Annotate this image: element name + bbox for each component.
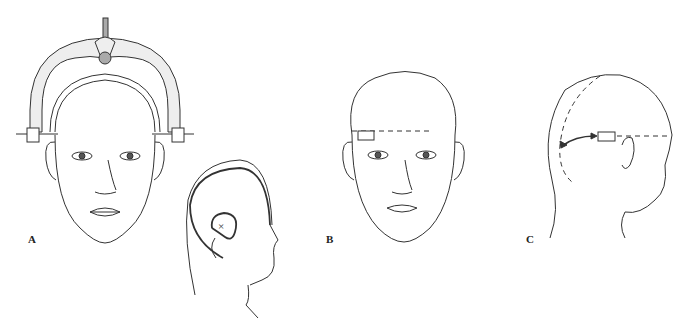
- head-outline: [351, 72, 456, 243]
- head-outline: [548, 75, 672, 238]
- marker-rectangle: [358, 131, 374, 140]
- frame-inner-band-2: [55, 80, 155, 132]
- right-ear: [154, 142, 164, 180]
- mouth: [90, 208, 120, 216]
- right-pin-clamp: [172, 128, 184, 142]
- inset-face-profile: [246, 225, 278, 318]
- right-iris: [423, 152, 429, 158]
- frame-knob-icon: [99, 52, 111, 64]
- arrow-head-left: [560, 141, 567, 148]
- inset-head-inner: [190, 168, 270, 258]
- diagram-canvas: ×: [0, 0, 683, 331]
- right-ear: [454, 142, 464, 180]
- dashed-curve: [560, 76, 600, 182]
- nose: [95, 160, 116, 194]
- frame-inner-band: [50, 74, 160, 132]
- ear: [622, 137, 634, 168]
- panel-label-a: A: [28, 233, 36, 245]
- panel-label-b: B: [326, 233, 333, 245]
- inset-target-marker: ×: [218, 220, 224, 232]
- left-iris: [375, 152, 381, 158]
- panel-c-figure: [548, 75, 672, 238]
- left-iris: [79, 153, 85, 159]
- marker-rectangle: [598, 132, 615, 141]
- inset-ear: [212, 238, 216, 258]
- panel-a-inset: ×: [187, 160, 278, 318]
- panel-a-figure: [16, 18, 194, 243]
- arrow-head-right: [591, 133, 597, 139]
- left-ear: [46, 142, 56, 180]
- nose: [392, 160, 412, 194]
- mouth: [387, 205, 417, 212]
- panel-label-c: C: [526, 233, 534, 245]
- left-pin-clamp: [27, 128, 39, 142]
- face-outline: [55, 135, 155, 243]
- panel-b-figure: [343, 72, 465, 243]
- right-iris: [127, 153, 133, 159]
